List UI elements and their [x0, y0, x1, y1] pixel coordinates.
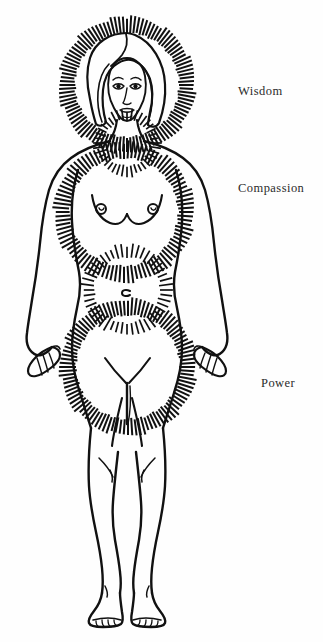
aura-ray	[131, 297, 132, 315]
aura-ray	[131, 418, 132, 435]
aura-ray	[56, 216, 71, 217]
aura-ray	[124, 419, 125, 434]
aura-ray	[59, 88, 76, 89]
aura-ray	[130, 137, 131, 152]
aura-ray	[178, 207, 194, 208]
aura-ray	[180, 88, 193, 89]
aura-ray	[128, 140, 129, 158]
aura-ray	[119, 265, 120, 282]
aura-ray	[128, 266, 129, 283]
aura-ray	[177, 215, 193, 216]
aura-ray	[124, 301, 125, 316]
right-pupil	[133, 84, 137, 89]
aura-ray	[60, 81, 75, 82]
label-wisdom: Wisdom	[238, 85, 283, 98]
aura-ray	[123, 17, 124, 33]
illustration-page: Wisdom Compassion Power	[0, 0, 323, 642]
aura-ray	[130, 15, 131, 33]
aura-ray	[181, 363, 195, 364]
aura-ray	[180, 370, 195, 371]
label-compassion: Compassion	[238, 182, 304, 195]
label-power: Power	[261, 377, 295, 390]
left-pupil	[116, 84, 120, 89]
aura-ray	[119, 142, 120, 159]
aura-ray	[178, 81, 194, 82]
aura-ray	[52, 207, 69, 208]
